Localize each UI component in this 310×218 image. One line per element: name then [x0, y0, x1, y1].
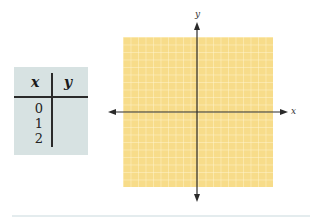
y-axis-label: y — [195, 9, 200, 19]
x-axis-label: x — [291, 106, 296, 116]
y-axis-up-arrow-icon — [194, 22, 200, 30]
bottom-divider — [12, 215, 310, 217]
coordinate-grid[interactable] — [0, 0, 310, 218]
x-axis-right-arrow-icon — [280, 109, 288, 115]
y-axis-down-arrow-icon — [194, 194, 200, 202]
x-axis-left-arrow-icon — [108, 109, 116, 115]
